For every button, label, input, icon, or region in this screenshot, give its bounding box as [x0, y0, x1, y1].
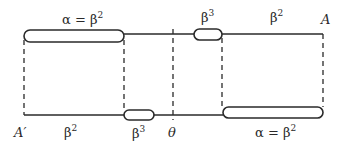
bottom-alpha-box	[223, 107, 323, 118]
label-theta: θ	[168, 125, 176, 140]
top-beta3-pill	[194, 29, 222, 40]
label-A: A	[320, 12, 330, 27]
top-alpha-box	[24, 30, 124, 42]
label-bottom-beta3: β3	[132, 124, 146, 141]
label-bottom-beta2: β2	[64, 123, 77, 140]
label-A-prime: A′	[13, 125, 26, 140]
diagram-canvas: α = β2 β3 β2 A A′ β2 β3 θ α = β2	[0, 0, 345, 148]
label-top-alpha: α = β2	[62, 10, 103, 27]
label-bottom-alpha: α = β2	[255, 123, 296, 140]
bottom-beta3-pill	[124, 110, 154, 120]
label-top-beta3: β3	[201, 8, 215, 25]
label-top-beta2: β2	[270, 8, 283, 25]
